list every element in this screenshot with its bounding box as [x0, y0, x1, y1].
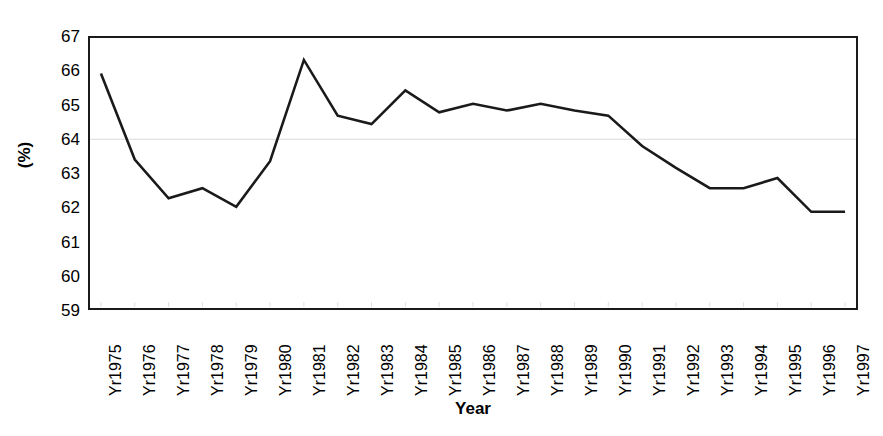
x-tick-label: Yr1994 — [753, 312, 771, 396]
x-tick-label: Yr1977 — [175, 312, 193, 396]
x-tick-label: Yr1984 — [413, 312, 431, 396]
y-axis-title: (%) — [8, 0, 42, 310]
x-tick-label: Yr1995 — [787, 312, 805, 396]
x-tick-label: Yr1976 — [141, 312, 159, 396]
x-tick-label: Yr1997 — [855, 312, 873, 396]
x-tick-label: Yr1978 — [209, 312, 227, 396]
x-tick-label: Yr1990 — [617, 312, 635, 396]
y-tick-label: 60 — [61, 267, 80, 284]
x-tick-label: Yr1975 — [107, 312, 125, 396]
x-tick-label: Yr1982 — [345, 312, 363, 396]
x-tick-label: Yr1987 — [515, 312, 533, 396]
y-axis-tick-labels: 676665646362616059 — [40, 36, 84, 310]
y-tick-label: 64 — [61, 130, 80, 147]
x-tick-label: Yr1979 — [243, 312, 261, 396]
y-tick-label: 61 — [61, 233, 80, 250]
line-chart-figure: (%) 676665646362616059 Yr1975Yr1976Yr197… — [0, 0, 883, 436]
x-tick-label: Yr1991 — [651, 312, 669, 396]
x-tick-label: Yr1980 — [277, 312, 295, 396]
y-tick-label: 66 — [61, 62, 80, 79]
plot-area — [88, 36, 858, 310]
y-tick-label: 65 — [61, 96, 80, 113]
y-tick-label: 67 — [61, 28, 80, 45]
x-tick-label: Yr1996 — [821, 312, 839, 396]
x-axis-tick-marks — [101, 302, 845, 307]
x-tick-label: Yr1988 — [549, 312, 567, 396]
x-tick-label: Yr1986 — [481, 312, 499, 396]
x-tick-label: Yr1992 — [685, 312, 703, 396]
plot-svg — [90, 38, 856, 308]
y-tick-label: 59 — [61, 302, 80, 319]
x-tick-label: Yr1981 — [311, 312, 329, 396]
x-tick-label: Yr1985 — [447, 312, 465, 396]
data-series-line — [101, 60, 845, 212]
x-axis-title: Year — [88, 399, 858, 419]
x-tick-label: Yr1989 — [583, 312, 601, 396]
y-axis-title-label: (%) — [15, 142, 35, 168]
y-tick-label: 63 — [61, 165, 80, 182]
x-tick-label: Yr1993 — [719, 312, 737, 396]
x-axis-tick-labels: Yr1975Yr1976Yr1977Yr1978Yr1979Yr1980Yr19… — [88, 312, 858, 396]
x-tick-label: Yr1983 — [379, 312, 397, 396]
y-tick-label: 62 — [61, 199, 80, 216]
